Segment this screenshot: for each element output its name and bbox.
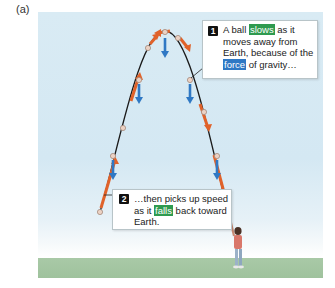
callout-slows: 1 A ball slows as it moves away from Ear… xyxy=(202,20,318,79)
highlight-falls: falls xyxy=(154,205,173,216)
callout-falls: 2 …then picks up speed as it falls back … xyxy=(112,189,232,230)
callout-text: …then picks up speed as it falls back to… xyxy=(134,193,230,228)
callout-text: A ball slows as it moves away from Earth… xyxy=(223,24,315,70)
step-number-badge: 2 xyxy=(119,194,129,204)
step-number-badge: 1 xyxy=(208,26,218,36)
highlight-force: force xyxy=(223,59,246,70)
highlight-slows: slows xyxy=(249,24,275,35)
